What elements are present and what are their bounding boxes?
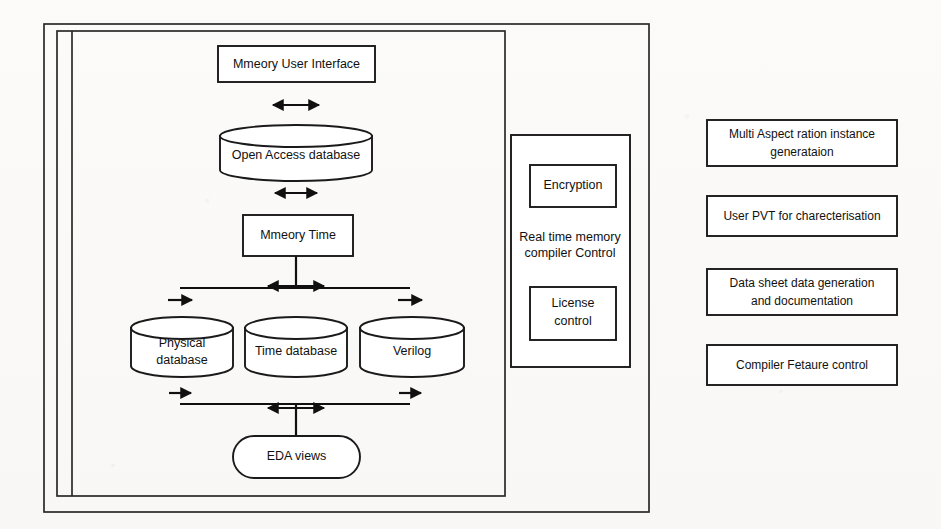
system-architecture-diagram: Mmeory User Interface Open Access databa…	[0, 0, 941, 529]
edge-mtime-branch-bus	[168, 256, 422, 300]
box-encryption[interactable]: Encryption	[530, 165, 616, 207]
node-label-memory-time: Mmeory Time	[260, 228, 336, 242]
box-license-control[interactable]: License control	[530, 287, 616, 340]
control-panel-caption-line2: compiler Control	[524, 246, 615, 260]
node-memory-user-interface[interactable]: Mmeory User Interface	[218, 46, 375, 82]
box-label-license-control-line1: License	[551, 296, 594, 310]
node-open-access-database[interactable]: Open Access database	[220, 125, 372, 181]
feature-box-data-sheet[interactable]: Data sheet data generation and documenta…	[707, 269, 897, 315]
node-eda-views[interactable]: EDA views	[233, 436, 360, 478]
node-label-time-database: Time database	[255, 344, 337, 358]
control-panel-caption-line1: Real time memory	[519, 230, 621, 244]
node-label-open-access-database: Open Access database	[232, 148, 361, 162]
node-label-verilog: Verilog	[393, 344, 431, 358]
feature-box-multi-aspect-ratio[interactable]: Multi Aspect ration instance generataion	[707, 120, 897, 166]
node-label-eda-views: EDA views	[267, 449, 327, 463]
feature-label-user-pvt: User PVT for charecterisation	[723, 209, 880, 223]
edge-eda-bus	[169, 393, 421, 436]
feature-label-multi-aspect-ratio-line2: generataion	[770, 145, 833, 159]
node-time-database[interactable]: Time database	[245, 317, 347, 377]
node-label-memory-user-interface: Mmeory User Interface	[233, 57, 360, 71]
diagram-page: Mmeory User Interface Open Access databa…	[0, 0, 941, 529]
node-label-physical-database-line1: Physical	[159, 336, 206, 350]
node-physical-database[interactable]: Physical database	[131, 317, 233, 377]
feature-label-data-sheet-line1: Data sheet data generation	[730, 276, 875, 290]
inner-frame	[57, 31, 505, 496]
node-memory-time[interactable]: Mmeory Time	[243, 215, 353, 256]
feature-box-user-pvt[interactable]: User PVT for charecterisation	[707, 196, 897, 236]
node-label-physical-database-line2: database	[156, 353, 207, 367]
node-verilog[interactable]: Verilog	[360, 317, 464, 377]
box-label-license-control-line2: control	[554, 314, 592, 328]
feature-box-compiler-feature[interactable]: Compiler Fetaure control	[707, 345, 897, 385]
feature-label-compiler-feature: Compiler Fetaure control	[736, 358, 868, 372]
box-label-encryption: Encryption	[543, 178, 602, 192]
panel-real-time-memory-compiler-control: Encryption Real time memory compiler Con…	[511, 135, 630, 367]
feature-label-data-sheet-line2: and documentation	[751, 294, 853, 308]
feature-label-multi-aspect-ratio-line1: Multi Aspect ration instance	[729, 127, 875, 141]
